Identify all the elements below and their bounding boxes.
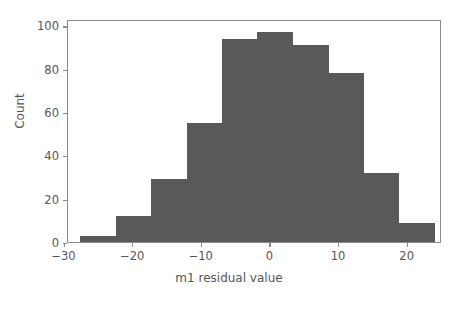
y-tick-label: 0 (52, 236, 59, 250)
x-tick-label: −30 (51, 249, 75, 263)
histogram-bar (222, 39, 257, 243)
x-tick-label: 10 (331, 249, 346, 263)
histogram-bar (151, 179, 187, 242)
y-tick-label: 100 (37, 19, 59, 33)
histogram-bar (116, 216, 151, 242)
y-tick-label: 20 (44, 193, 59, 207)
histogram-bar (257, 32, 293, 242)
x-tick-label: 20 (399, 249, 414, 263)
histogram-bar (399, 223, 435, 242)
histogram-bar (293, 45, 329, 242)
histogram-bar (329, 73, 364, 242)
y-axis-label: Count (13, 46, 27, 176)
x-tick-mark (407, 243, 408, 247)
x-tick-mark (132, 243, 133, 247)
x-tick-mark (64, 243, 65, 247)
histogram-bar (80, 236, 116, 242)
x-tick-label: −10 (189, 249, 213, 263)
x-tick-mark (269, 243, 270, 247)
x-axis-label: m1 residual value (0, 271, 458, 285)
y-tick-label: 40 (44, 149, 59, 163)
histogram-bar (187, 123, 223, 242)
histogram-bar (364, 173, 400, 242)
histogram-figure: 020406080100 −30−20−1001020 m1 residual … (0, 0, 458, 329)
x-tick-label: −20 (120, 249, 144, 263)
x-tick-mark (201, 243, 202, 247)
y-tick-label: 80 (44, 63, 59, 77)
x-tick-label: 0 (266, 249, 273, 263)
bars-container (68, 21, 440, 242)
x-tick-mark (338, 243, 339, 247)
plot-area (67, 20, 441, 243)
y-tick-label: 60 (44, 106, 59, 120)
